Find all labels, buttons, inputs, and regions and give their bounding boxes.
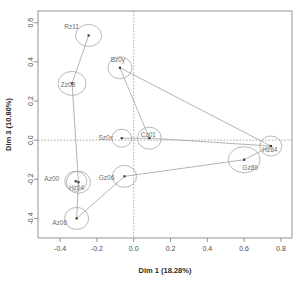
data-point-label: Az00 [44, 175, 59, 182]
data-point-label: Hz04 [69, 184, 85, 191]
data-point-marker[interactable] [75, 180, 77, 182]
data-point-marker[interactable] [76, 217, 78, 219]
data-point-label: Rz11 [64, 23, 79, 30]
data-point-marker[interactable] [77, 181, 79, 183]
data-point-label: Gz06 [99, 174, 115, 181]
data-point-marker[interactable] [243, 159, 245, 161]
y-tick-label: 0.6 [28, 18, 35, 28]
x-tick-label: 0.2 [166, 245, 176, 252]
data-point-marker[interactable] [88, 34, 90, 36]
plot-canvas: -0.4-0.20.00.20.40.60.8-0.4-0.20.00.20.4… [0, 0, 302, 281]
x-axis-title: Dim 1 (18.28%) [139, 266, 192, 275]
data-point-marker[interactable] [121, 137, 123, 139]
data-point-label: Bz0y [111, 56, 126, 64]
x-tick-label: 0.4 [202, 245, 212, 252]
data-point-marker[interactable] [119, 67, 121, 69]
plot-frame [38, 11, 292, 238]
data-point-label: Hz84 [262, 146, 278, 153]
data-point-label: Az06 [52, 219, 67, 226]
y-tick-label: -0.2 [28, 173, 35, 185]
link-segment [77, 176, 125, 218]
x-tick-label: 0.6 [239, 245, 249, 252]
data-point-label: Gz89 [242, 164, 258, 171]
y-tick-label: 0.0 [28, 135, 35, 145]
scatter-plot-figure: -0.4-0.20.00.20.40.60.8-0.4-0.20.00.20.4… [0, 0, 302, 281]
link-segment [125, 160, 245, 177]
x-tick-label: -0.2 [91, 245, 103, 252]
y-axis-title: Dim 3 (10.80%) [4, 98, 13, 151]
x-tick-label: 0.0 [129, 245, 139, 252]
x-tick-label: -0.4 [54, 245, 66, 252]
data-point-label: Cz01 [141, 131, 157, 138]
data-point-label: Zz08 [61, 81, 76, 88]
y-tick-label: -0.4 [28, 212, 35, 224]
y-tick-label: 0.4 [28, 57, 35, 67]
data-point-marker[interactable] [123, 175, 125, 177]
y-tick-label: 0.2 [28, 96, 35, 106]
link-segment [72, 35, 89, 83]
link-segment [149, 138, 270, 146]
x-tick-label: 0.8 [276, 245, 286, 252]
data-point-label: Sz0x [99, 134, 114, 141]
link-segment [72, 83, 78, 182]
